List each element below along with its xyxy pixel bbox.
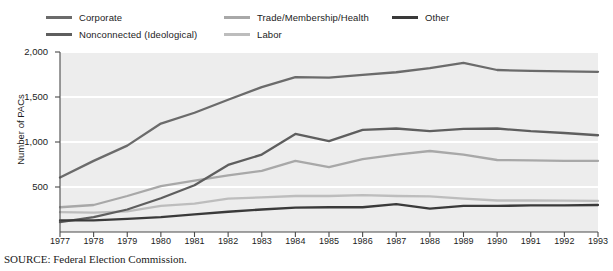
chart-legend: CorporateNonconnected (Ideological)Trade… (46, 8, 586, 42)
legend-item[interactable]: Nonconnected (Ideological) (46, 29, 197, 40)
legend-item-label: Corporate (79, 12, 122, 23)
legend-swatch-icon (46, 16, 72, 19)
legend-item[interactable]: Corporate (46, 12, 122, 23)
legend-swatch-icon (46, 33, 72, 36)
legend-item-label: Other (425, 12, 449, 23)
legend-swatch-icon (224, 33, 250, 36)
legend-item[interactable]: Other (392, 12, 449, 23)
legend-item-label: Nonconnected (Ideological) (79, 29, 197, 40)
legend-swatch-icon (392, 16, 418, 19)
legend-swatch-icon (224, 16, 250, 19)
legend-item-label: Trade/Membership/Health (257, 12, 369, 23)
source-note: SOURCE: Federal Election Commission. (4, 253, 187, 265)
plot-area-wrapper: Number of PACs 5001,0001,5002,000 197719… (0, 46, 607, 246)
line-chart-svg (0, 46, 607, 246)
x-tick-label: 1993 (578, 236, 613, 246)
legend-item[interactable]: Labor (224, 29, 282, 40)
legend-item-label: Labor (257, 29, 282, 40)
legend-item[interactable]: Trade/Membership/Health (224, 12, 369, 23)
